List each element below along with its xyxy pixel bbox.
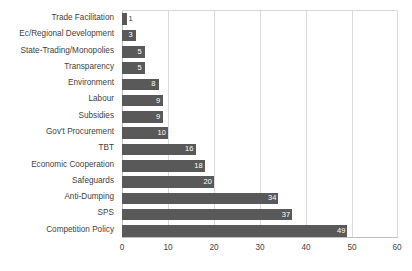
bars-layer: 1 3 5 5 8 9	[122, 11, 397, 237]
bar-row: 10	[122, 125, 397, 141]
bar-value-label: 34	[268, 195, 277, 203]
x-axis-tick-label: 10	[163, 242, 172, 254]
y-axis-label: SPS	[0, 205, 118, 221]
y-axis-label: Safeguards	[0, 173, 118, 189]
bar-row: 18	[122, 158, 397, 174]
gridline	[397, 11, 398, 237]
bar-value-label: 5	[138, 48, 142, 56]
bar-row: 37	[122, 206, 397, 222]
x-axis-tick-label: 40	[301, 242, 310, 254]
x-axis-tick-label: 20	[209, 242, 218, 254]
y-axis-category-labels: Trade Facilitation Ec/Regional Developme…	[0, 10, 118, 238]
bar-row: 5	[122, 60, 397, 76]
bar[interactable]	[122, 225, 347, 237]
bar-value-label: 9	[156, 97, 160, 105]
y-axis-label: Economic Cooperation	[0, 157, 118, 173]
y-axis-label: Environment	[0, 75, 118, 91]
bar-row: 1	[122, 11, 397, 27]
x-axis-tick-label: 30	[255, 242, 264, 254]
bar-value-label: 1	[129, 15, 133, 23]
y-axis-label: Transparency	[0, 59, 118, 75]
bar-value-label: 37	[282, 211, 291, 219]
x-axis-tick-label: 50	[347, 242, 356, 254]
y-axis-label: State-Trading/Monopolies	[0, 43, 118, 59]
y-axis-label: Anti-Dumping	[0, 189, 118, 205]
x-axis-tick-labels: 0 10 20 30 40 50 60	[122, 242, 398, 258]
bar-value-label: 20	[204, 178, 213, 186]
bar-value-label: 9	[156, 113, 160, 121]
y-axis-label: Trade Facilitation	[0, 10, 118, 26]
y-axis-label: Gov't Procurement	[0, 124, 118, 140]
bar-row: 9	[122, 109, 397, 125]
bar[interactable]	[122, 209, 292, 221]
bar[interactable]	[122, 160, 205, 172]
y-axis-label: Labour	[0, 91, 118, 107]
bar-row: 9	[122, 92, 397, 108]
bar-row: 20	[122, 174, 397, 190]
bar-chart: Trade Facilitation Ec/Regional Developme…	[0, 0, 412, 271]
x-axis-tick-label: 0	[120, 242, 125, 254]
bar-value-label: 10	[158, 129, 167, 137]
plot-area: 1 3 5 5 8 9	[122, 10, 398, 238]
bar-value-label: 49	[337, 227, 346, 235]
bar[interactable]	[122, 193, 278, 205]
bar-row: 8	[122, 76, 397, 92]
y-axis-label: TBT	[0, 140, 118, 156]
bar-row: 16	[122, 141, 397, 157]
bar[interactable]	[122, 176, 214, 188]
bar-row: 49	[122, 223, 397, 239]
bar-value-label: 3	[129, 32, 133, 40]
bar-row: 5	[122, 44, 397, 60]
bar-value-label: 16	[185, 146, 194, 154]
bar-value-label: 18	[194, 162, 203, 170]
y-axis-label: Subsidies	[0, 108, 118, 124]
bar-value-label: 5	[138, 64, 142, 72]
bar-value-label: 8	[151, 81, 155, 89]
x-axis-tick-label: 60	[392, 242, 401, 254]
y-axis-label: Ec/Regional Development	[0, 26, 118, 42]
y-axis-label: Competition Policy	[0, 222, 118, 238]
bar-row: 3	[122, 27, 397, 43]
bar-row: 34	[122, 190, 397, 206]
bar[interactable]	[122, 13, 127, 25]
